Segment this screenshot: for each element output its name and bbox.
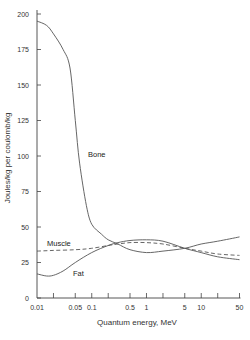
y-tick-label: 0 (25, 295, 29, 302)
y-tick-label: 150 (17, 82, 29, 89)
x-tick-label: 50 (236, 304, 244, 311)
plot-curves (37, 21, 240, 276)
x-tick-label: 0.05 (68, 304, 82, 311)
curve-label-bone: Bone (88, 150, 106, 159)
x-tick-label: 0.5 (125, 304, 135, 311)
x-tick-label: 0.01 (30, 304, 44, 311)
y-tick-label: 200 (17, 11, 29, 18)
y-tick-label: 50 (21, 224, 29, 231)
y-tick-label: 175 (17, 46, 29, 53)
chart: 0255075100125150175200 0.010.050.10.5151… (0, 0, 250, 340)
x-tick-label: 5 (183, 304, 187, 311)
x-tick-label: 1 (145, 304, 149, 311)
x-axis-ticks: 0.010.050.10.5151050 (30, 293, 243, 311)
y-tick-label: 75 (21, 188, 29, 195)
curve-label-muscle: Muscle (47, 239, 71, 248)
curve-bone (37, 21, 240, 253)
y-tick-label: 25 (21, 259, 29, 266)
y-axis-title: Joules/kg per coulomb/kg (3, 113, 12, 204)
curve-label-fat: Fat (73, 269, 85, 278)
x-axis-title: Quantum energy, MeV (97, 318, 178, 327)
x-tick-label: 10 (197, 304, 205, 311)
y-tick-label: 125 (17, 117, 29, 124)
y-tick-label: 100 (17, 153, 29, 160)
x-tick-label: 0.1 (87, 304, 97, 311)
curve-labels: BoneMuscleFat (47, 150, 106, 278)
